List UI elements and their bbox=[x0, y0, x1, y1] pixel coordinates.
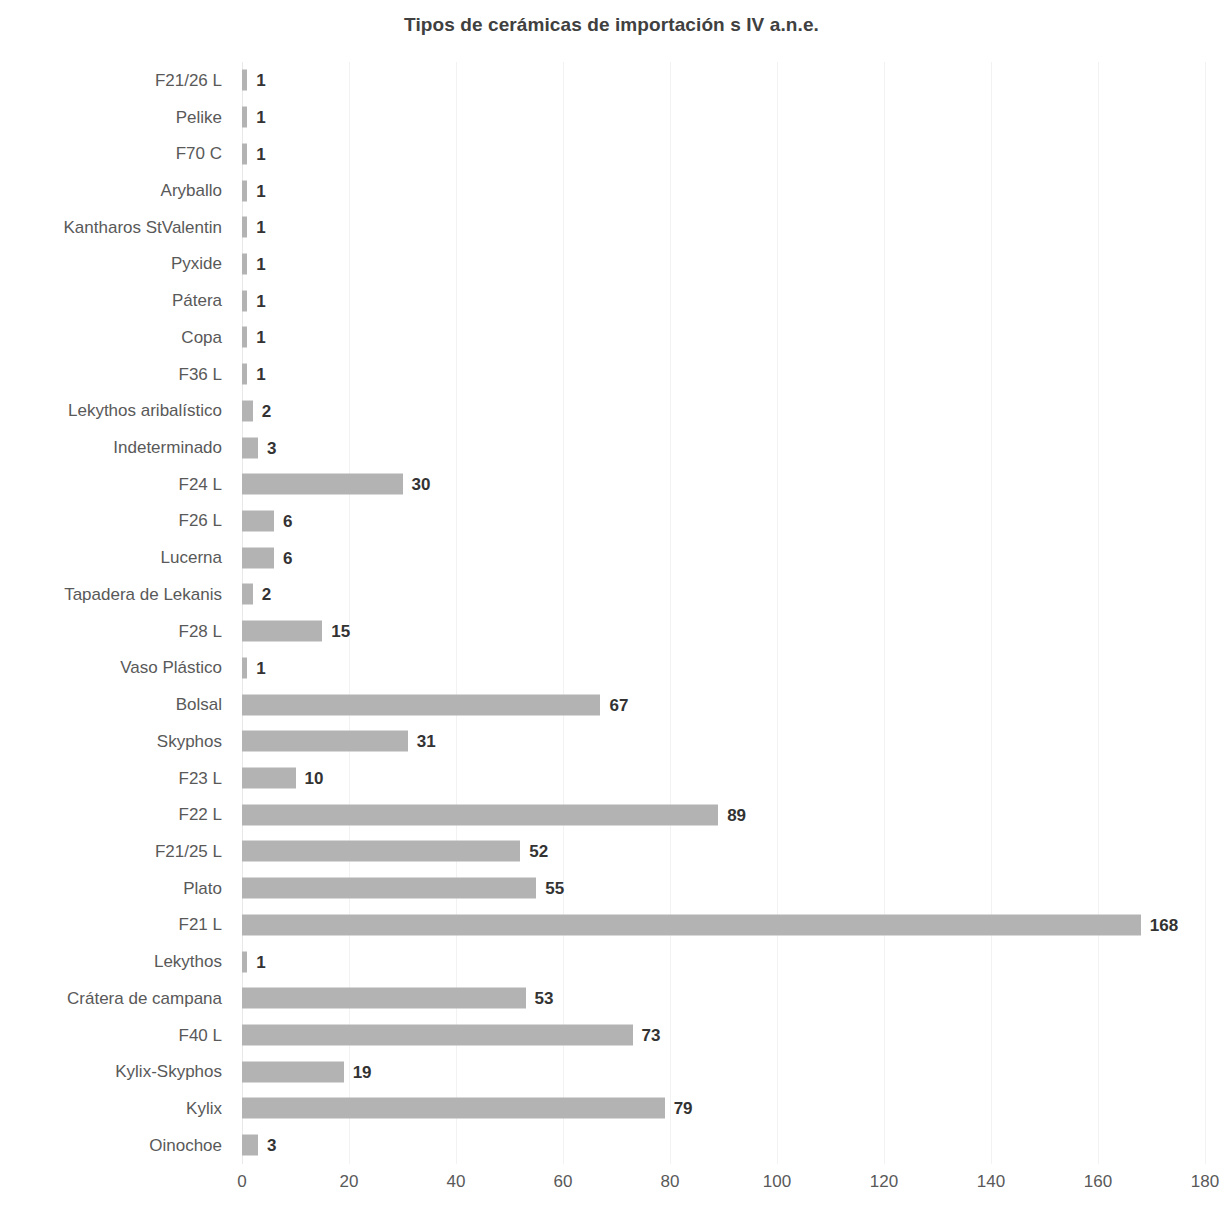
bar-value-label: 1 bbox=[256, 329, 265, 346]
category-label: Crátera de campana bbox=[0, 990, 222, 1007]
category-label: F23 L bbox=[0, 770, 222, 787]
chart-title: Tipos de cerámicas de importación s IV a… bbox=[0, 14, 1223, 36]
bar-value-label: 53 bbox=[535, 990, 554, 1007]
bar-row: F21/26 L1 bbox=[0, 62, 1223, 99]
bar-wrapper: 67 bbox=[242, 694, 628, 715]
bar[interactable] bbox=[242, 400, 253, 421]
bar[interactable] bbox=[242, 364, 247, 385]
bar[interactable] bbox=[242, 217, 247, 238]
bar-wrapper: 10 bbox=[242, 768, 323, 789]
bar-row: F22 L89 bbox=[0, 796, 1223, 833]
bar-wrapper: 1 bbox=[242, 180, 266, 201]
bar[interactable] bbox=[242, 1061, 344, 1082]
bar-value-label: 30 bbox=[412, 476, 431, 493]
bar-row: F26 L6 bbox=[0, 503, 1223, 540]
bar[interactable] bbox=[242, 474, 403, 495]
category-label: Oinochoe bbox=[0, 1137, 222, 1154]
bar-wrapper: 53 bbox=[242, 988, 553, 1009]
bar[interactable] bbox=[242, 1025, 633, 1046]
bar-wrapper: 3 bbox=[242, 437, 277, 458]
bar[interactable] bbox=[242, 988, 526, 1009]
bar-wrapper: 2 bbox=[242, 584, 271, 605]
bar-wrapper: 1 bbox=[242, 290, 266, 311]
bar-wrapper: 52 bbox=[242, 841, 548, 862]
bar[interactable] bbox=[242, 143, 247, 164]
bar[interactable] bbox=[242, 951, 247, 972]
bar-row: F21/25 L52 bbox=[0, 833, 1223, 870]
bar[interactable] bbox=[242, 547, 274, 568]
bar-value-label: 1 bbox=[256, 219, 265, 236]
bar-value-label: 1 bbox=[256, 659, 265, 676]
bar[interactable] bbox=[242, 731, 408, 752]
bar[interactable] bbox=[242, 510, 274, 531]
bar-value-label: 168 bbox=[1150, 916, 1178, 933]
bar[interactable] bbox=[242, 1135, 258, 1156]
bar[interactable] bbox=[242, 327, 247, 348]
bar[interactable] bbox=[242, 1098, 665, 1119]
bar[interactable] bbox=[242, 878, 536, 899]
bar-value-label: 1 bbox=[256, 109, 265, 126]
bar-row: Kylix79 bbox=[0, 1090, 1223, 1127]
bar-wrapper: 1 bbox=[242, 217, 266, 238]
category-label: Indeterminado bbox=[0, 439, 222, 456]
bar-row: Lekythos1 bbox=[0, 943, 1223, 980]
x-tick-label: 100 bbox=[763, 1172, 791, 1192]
bar-value-label: 6 bbox=[283, 549, 292, 566]
category-label: Pyxide bbox=[0, 255, 222, 272]
category-label: F22 L bbox=[0, 806, 222, 823]
bar[interactable] bbox=[242, 657, 247, 678]
bar-value-label: 1 bbox=[256, 953, 265, 970]
bar-row: Plato55 bbox=[0, 870, 1223, 907]
bar[interactable] bbox=[242, 180, 247, 201]
bar-wrapper: 55 bbox=[242, 878, 564, 899]
bar-value-label: 15 bbox=[331, 623, 350, 640]
bar-value-label: 1 bbox=[256, 182, 265, 199]
bar-wrapper: 6 bbox=[242, 510, 293, 531]
bar-value-label: 3 bbox=[267, 439, 276, 456]
bar[interactable] bbox=[242, 253, 247, 274]
x-axis: 020406080100120140160180 bbox=[242, 1172, 1205, 1202]
bar[interactable] bbox=[242, 914, 1141, 935]
bar-row: Indeterminado3 bbox=[0, 429, 1223, 466]
bar[interactable] bbox=[242, 841, 520, 862]
x-tick-label: 180 bbox=[1191, 1172, 1219, 1192]
bar-row: Oinochoe3 bbox=[0, 1127, 1223, 1164]
category-label: Pátera bbox=[0, 292, 222, 309]
bar-wrapper: 168 bbox=[242, 914, 1178, 935]
bar-row: Kantharos StValentin1 bbox=[0, 209, 1223, 246]
bar-value-label: 2 bbox=[262, 586, 271, 603]
category-label: Vaso Plástico bbox=[0, 659, 222, 676]
bar[interactable] bbox=[242, 437, 258, 458]
bar-value-label: 55 bbox=[545, 880, 564, 897]
bar-row: F23 L10 bbox=[0, 760, 1223, 797]
bar[interactable] bbox=[242, 290, 247, 311]
bar-row: Kylix-Skyphos19 bbox=[0, 1053, 1223, 1090]
bar-row: Lekythos aribalístico2 bbox=[0, 392, 1223, 429]
bar-value-label: 10 bbox=[305, 770, 324, 787]
category-label: F28 L bbox=[0, 623, 222, 640]
category-label: F70 C bbox=[0, 145, 222, 162]
bar-wrapper: 1 bbox=[242, 253, 266, 274]
x-tick-label: 40 bbox=[447, 1172, 466, 1192]
bar[interactable] bbox=[242, 584, 253, 605]
bar[interactable] bbox=[242, 621, 322, 642]
bar-wrapper: 31 bbox=[242, 731, 436, 752]
bar-wrapper: 1 bbox=[242, 364, 266, 385]
category-label: Aryballo bbox=[0, 182, 222, 199]
bar-value-label: 1 bbox=[256, 255, 265, 272]
bar-row: Aryballo1 bbox=[0, 172, 1223, 209]
bar[interactable] bbox=[242, 804, 718, 825]
bar[interactable] bbox=[242, 70, 247, 91]
bar-wrapper: 73 bbox=[242, 1025, 660, 1046]
bar[interactable] bbox=[242, 694, 600, 715]
bar-row: F40 L73 bbox=[0, 1017, 1223, 1054]
category-label: F26 L bbox=[0, 512, 222, 529]
bar-wrapper: 3 bbox=[242, 1135, 277, 1156]
bar-row: Skyphos31 bbox=[0, 723, 1223, 760]
bar[interactable] bbox=[242, 107, 247, 128]
chart-rows: F21/26 L1Pelike1F70 C1Aryballo1Kantharos… bbox=[0, 62, 1223, 1164]
bar-wrapper: 1 bbox=[242, 70, 266, 91]
bar[interactable] bbox=[242, 768, 296, 789]
category-label: Plato bbox=[0, 880, 222, 897]
bar-row: Tapadera de Lekanis2 bbox=[0, 576, 1223, 613]
